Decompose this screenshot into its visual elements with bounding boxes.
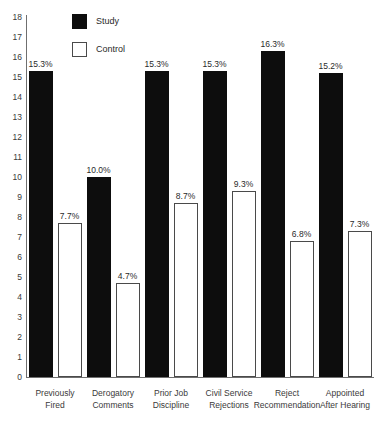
bar-control-1	[58, 223, 82, 377]
bar-control-4	[232, 191, 256, 377]
y-axis-tick-15: 15	[2, 73, 22, 82]
bar-study-4	[203, 71, 227, 377]
bar-value-label-study-3: 15.3%	[141, 60, 173, 69]
bar-study-1	[29, 71, 53, 377]
y-axis-tick-18: 18	[2, 13, 22, 22]
bar-value-label-study-4: 15.3%	[199, 60, 231, 69]
legend-swatch-study-icon	[72, 14, 87, 29]
y-axis-tick-3: 3	[2, 313, 22, 322]
chart-legend: Study Control	[72, 14, 125, 70]
y-axis-tick-16: 16	[2, 53, 22, 62]
bar-value-label-control-4: 9.3%	[228, 180, 260, 189]
bar-control-2	[116, 283, 140, 377]
bar-value-label-study-1: 15.3%	[25, 60, 57, 69]
legend-swatch-control-icon	[72, 42, 87, 57]
bar-study-2	[87, 177, 111, 377]
bar-study-6	[319, 73, 343, 377]
plot-area: 15.3%10.0%15.3%15.3%16.3%15.2%7.7%4.7%8.…	[26, 17, 374, 377]
y-axis-tick-17: 17	[2, 33, 22, 42]
bar-chart: 1817161514131211109876543210 15.3%10.0%1…	[0, 0, 390, 422]
bar-value-label-control-5: 6.8%	[286, 230, 318, 239]
y-axis-tick-9: 9	[2, 193, 22, 202]
bar-value-label-study-5: 16.3%	[257, 40, 289, 49]
bar-control-6	[348, 231, 372, 377]
y-axis-tick-2: 2	[2, 333, 22, 342]
bar-study-5	[261, 51, 285, 377]
y-axis-tick-7: 7	[2, 233, 22, 242]
bar-study-3	[145, 71, 169, 377]
bar-control-3	[174, 203, 198, 377]
bar-value-label-study-2: 10.0%	[83, 166, 115, 175]
category-label-6: AppointedAfter Hearing	[300, 388, 390, 411]
y-axis-tick-14: 14	[2, 93, 22, 102]
bar-value-label-control-3: 8.7%	[170, 192, 202, 201]
bar-value-label-control-2: 4.7%	[112, 272, 144, 281]
legend-item-control: Control	[72, 42, 125, 57]
bar-value-label-study-6: 15.2%	[315, 62, 347, 71]
bar-control-5	[290, 241, 314, 377]
y-axis-tick-4: 4	[2, 293, 22, 302]
y-axis-tick-12: 12	[2, 133, 22, 142]
legend-item-study: Study	[72, 14, 125, 29]
y-axis-tick-6: 6	[2, 253, 22, 262]
y-axis-tick-11: 11	[2, 153, 22, 162]
legend-label-control: Control	[96, 45, 125, 54]
y-axis-tick-0: 0	[2, 373, 22, 382]
bar-value-label-control-1: 7.7%	[54, 212, 86, 221]
bar-value-label-control-6: 7.3%	[344, 220, 376, 229]
y-axis-tick-13: 13	[2, 113, 22, 122]
y-axis-tick-5: 5	[2, 273, 22, 282]
y-axis-tick-10: 10	[2, 173, 22, 182]
legend-label-study: Study	[96, 17, 119, 26]
y-axis-tick-8: 8	[2, 213, 22, 222]
y-axis-tick-1: 1	[2, 353, 22, 362]
